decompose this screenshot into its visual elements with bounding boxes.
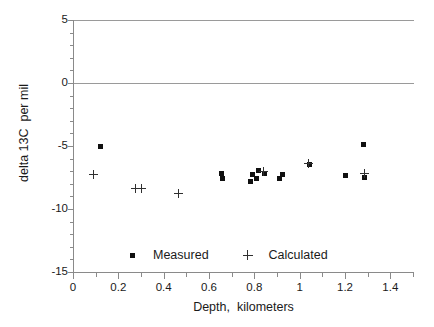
- x-axis-minor-tick: [277, 273, 278, 277]
- chart-figure: delta 13C per mil 50-5-10-1500.20.40.60.…: [0, 0, 434, 327]
- legend-label-measured: Measured: [153, 249, 209, 262]
- x-axis-minor-tick: [368, 273, 369, 277]
- x-axis-line: [73, 272, 414, 273]
- x-axis-tick-label: 0.6: [189, 281, 229, 293]
- data-point-measured: [361, 142, 366, 147]
- data-point-measured: [248, 179, 253, 184]
- plot-border-top: [73, 20, 414, 21]
- x-axis-minor-tick: [141, 273, 142, 277]
- legend-item-measured: Measured: [130, 249, 209, 262]
- square-marker-icon: [130, 253, 135, 258]
- x-axis-minor-tick: [413, 273, 414, 277]
- x-axis-major-tick: [118, 273, 119, 279]
- x-axis-minor-tick: [232, 273, 233, 277]
- legend-label-calculated: Calculated: [269, 249, 328, 262]
- y-axis-minor-tick: [70, 133, 74, 134]
- data-point-calculated: [259, 167, 268, 176]
- x-axis-label: Depth, kilometers: [73, 300, 414, 314]
- y-axis-tick-label: -15: [42, 266, 68, 278]
- y-axis-minor-tick: [70, 196, 74, 197]
- x-axis-major-tick: [209, 273, 210, 279]
- data-point-measured: [277, 176, 282, 181]
- y-axis-minor-tick: [70, 58, 74, 59]
- y-axis-major-tick: [68, 209, 74, 210]
- data-point-measured: [343, 173, 348, 178]
- y-axis-minor-tick: [70, 108, 74, 109]
- x-axis-tick-label: 1.4: [370, 281, 410, 293]
- data-point-calculated: [174, 189, 183, 198]
- y-axis-minor-tick: [70, 171, 74, 172]
- x-axis-major-tick: [254, 273, 255, 279]
- chart-legend: Measured Calculated: [130, 246, 360, 264]
- y-axis-major-tick: [68, 146, 74, 147]
- x-axis-tick-label: 0.2: [98, 281, 138, 293]
- y-axis-tick-label: -10: [42, 203, 68, 215]
- data-point-calculated: [89, 170, 98, 179]
- data-point-calculated: [304, 159, 313, 168]
- x-axis-major-tick: [390, 273, 391, 279]
- y-axis-major-tick: [68, 20, 74, 21]
- y-axis-tick-label: 0: [42, 77, 68, 89]
- x-axis-major-tick: [345, 273, 346, 279]
- x-axis-tick-label: 1: [280, 281, 320, 293]
- plus-marker-icon: [243, 250, 253, 260]
- y-axis-minor-tick: [70, 234, 74, 235]
- x-axis-minor-tick: [322, 273, 323, 277]
- data-point-calculated: [137, 184, 146, 193]
- y-axis-minor-tick: [70, 247, 74, 248]
- x-axis-minor-tick: [186, 273, 187, 277]
- y-axis-minor-tick: [70, 184, 74, 185]
- y-axis-minor-tick: [70, 259, 74, 260]
- x-axis-tick-label: 0.4: [144, 281, 184, 293]
- x-axis-major-tick: [164, 273, 165, 279]
- data-point-measured: [98, 144, 103, 149]
- y-axis-major-tick: [68, 83, 74, 84]
- data-point-calculated: [360, 169, 369, 178]
- y-axis-tick-label: 5: [42, 14, 68, 26]
- zero-reference-line: [73, 83, 414, 84]
- x-axis-major-tick: [300, 273, 301, 279]
- data-point-measured: [220, 176, 225, 181]
- y-axis-minor-tick: [70, 159, 74, 160]
- x-axis-major-tick: [73, 273, 74, 279]
- y-axis-minor-tick: [70, 121, 74, 122]
- data-point-measured: [254, 176, 259, 181]
- x-axis-tick-label: 1.2: [325, 281, 365, 293]
- x-axis-minor-tick: [96, 273, 97, 277]
- y-axis-label: delta 13C per mil: [17, 23, 31, 243]
- x-axis-tick-label: 0.8: [234, 281, 274, 293]
- y-axis-minor-tick: [70, 45, 74, 46]
- legend-item-calculated: Calculated: [243, 249, 328, 262]
- y-axis-tick-label: -5: [42, 140, 68, 152]
- y-axis-minor-tick: [70, 222, 74, 223]
- y-axis-minor-tick: [70, 96, 74, 97]
- x-axis-tick-label: 0: [53, 281, 93, 293]
- y-axis-minor-tick: [70, 33, 74, 34]
- y-axis-minor-tick: [70, 70, 74, 71]
